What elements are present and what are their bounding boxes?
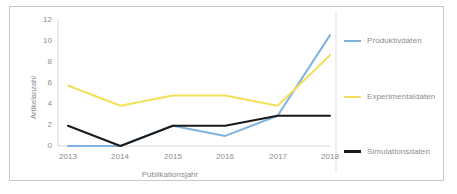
x-tick-label-2018: 2018 bbox=[312, 152, 348, 161]
y-tick-label-12: 12 bbox=[34, 15, 52, 24]
legend-label-experimentaldaten: Experimentaldaten bbox=[367, 92, 435, 101]
y-tick-label-2: 2 bbox=[34, 120, 52, 129]
legend-swatch-simulationsdaten bbox=[344, 150, 361, 153]
legend-item-experimentaldaten[interactable]: Experimentaldaten bbox=[344, 92, 435, 101]
legend-label-produktivdaten: Produktivdaten bbox=[367, 36, 422, 45]
series-line-produktivdaten bbox=[68, 35, 330, 146]
x-tick-label-2015: 2015 bbox=[155, 152, 191, 161]
chart-container: 12 10 8 6 4 2 0 2013 2014 2015 2016 2017… bbox=[9, 6, 444, 181]
x-tick-label-2014: 2014 bbox=[102, 152, 138, 161]
x-tick-label-2017: 2017 bbox=[260, 152, 296, 161]
y-axis-title: Artikelanzahl bbox=[29, 76, 38, 119]
x-tick-label-2016: 2016 bbox=[207, 152, 243, 161]
y-tick-label-0: 0 bbox=[34, 141, 52, 150]
y-tick-label-10: 10 bbox=[34, 36, 52, 45]
legend-swatch-produktivdaten bbox=[344, 40, 361, 42]
legend-label-simulationsdaten: Simulationsdaten bbox=[367, 147, 430, 156]
legend-swatch-experimentaldaten bbox=[344, 96, 361, 98]
legend-item-simulationsdaten[interactable]: Simulationsdaten bbox=[344, 147, 430, 156]
legend-item-produktivdaten[interactable]: Produktivdaten bbox=[344, 36, 422, 45]
series-line-experimentaldaten bbox=[68, 55, 330, 105]
x-tick-label-2013: 2013 bbox=[50, 152, 86, 161]
x-axis-title: Publikationsjahr bbox=[10, 170, 330, 179]
y-tick-label-8: 8 bbox=[34, 57, 52, 66]
